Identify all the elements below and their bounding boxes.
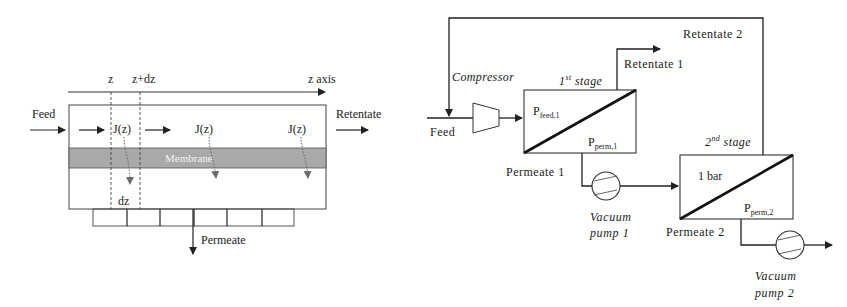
retentate1-label: Retentate 1 [624,57,684,71]
flux-label-1: J(z) [113,122,131,136]
feed-label-right: Feed [430,125,455,139]
dz-label: dz [118,194,129,208]
pump1-label-line2: pump 1 [589,226,629,240]
z-axis-label: z axis [308,72,336,86]
permeate-label: Permeate [201,233,246,247]
compressor-label: Compressor [452,70,514,84]
diagram-canvas: z z+dz z axis Membrane dz Feed Retentate… [0,0,847,307]
pump1-label-line1: Vacuum [590,210,632,224]
membrane-label: Membrane [165,152,213,164]
permeate2-label: Permeate 2 [666,225,725,239]
two-stage-process-diagram: Retentate 2 Feed Compressor 1st stage Pf… [427,18,832,300]
permeate2-line [741,219,776,245]
z-label: z [108,72,113,86]
z-dz-label: z+dz [132,72,155,86]
retentate-label: Retentate [336,107,381,121]
flux-label-2: J(z) [195,122,213,136]
stage2-pfeed: 1 bar [698,169,722,183]
pump2-label-line2: pump 2 [754,286,794,300]
stage2-title: 2nd stage [705,134,751,149]
flux-label-3: J(z) [288,122,306,136]
retentate2-label: Retentate 2 [683,27,743,41]
membrane-module-diagram: z z+dz z axis Membrane dz Feed Retentate… [30,72,381,254]
vacuum-pump2-icon [776,231,804,259]
permeate1-line [582,153,592,186]
stage1-title: 1st stage [559,73,603,88]
vacuum-pump1-icon [592,172,620,200]
compressor-icon [473,103,499,133]
feed-label: Feed [32,107,55,121]
permeate1-label: Permeate 1 [506,165,565,179]
pump2-label-line1: Vacuum [755,269,797,283]
